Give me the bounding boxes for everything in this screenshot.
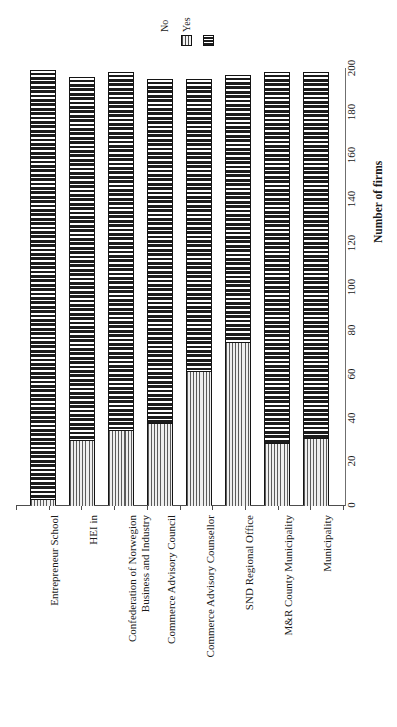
plot-area <box>0 50 345 515</box>
category-label-3: Confederation of Norwegion Business and … <box>126 515 151 715</box>
value-axis-tick-label: 100 <box>345 270 357 304</box>
value-axis-tick-label: 80 <box>345 313 357 347</box>
category-label-2: HEI in <box>87 515 100 715</box>
value-axis-tick-label: 40 <box>345 401 357 435</box>
axis-tick-mark <box>343 505 344 510</box>
value-axis-tick-label: 200 <box>345 51 357 85</box>
value-axis-tick-label: 120 <box>345 226 357 260</box>
value-axis-tick-label: 140 <box>345 182 357 216</box>
value-axis-tick-labels: 020406080100120140160180200 <box>345 50 375 515</box>
bar-segment-yes <box>31 71 55 499</box>
bar-4 <box>147 79 173 505</box>
value-axis-tick-label: 60 <box>345 357 357 391</box>
category-axis-labels: Entrepreneur SchoolHEI inConfederation o… <box>0 515 345 725</box>
bar-segment-no <box>109 430 133 506</box>
bar-segment-yes <box>304 73 328 438</box>
chart-legend: No Yes <box>178 2 238 46</box>
bar-segment-yes <box>148 80 172 423</box>
value-axis-title: Number of firms <box>372 161 384 243</box>
legend-label-no: No <box>159 2 170 32</box>
bar-6 <box>225 75 251 505</box>
axis-tick-mark <box>212 505 213 510</box>
stacked-bar-chart: No Yes 020406080100120140160180200 Numbe… <box>0 0 397 727</box>
legend-swatch-yes-icon <box>203 35 214 46</box>
value-axis-tick-label: 0 <box>345 488 357 522</box>
bar-segment-yes <box>109 73 133 429</box>
bar-segment-no <box>70 440 94 506</box>
bar-segment-no <box>226 342 250 506</box>
bar-2 <box>69 77 95 505</box>
bar-7 <box>264 72 290 505</box>
bar-segment-no <box>304 438 328 506</box>
category-label-1: Entrepreneur School <box>48 515 61 715</box>
bar-segment-yes <box>70 78 94 441</box>
category-label-7: M&R County Municipality <box>282 515 295 715</box>
bar-segment-no <box>31 499 55 506</box>
axis-tick-mark <box>16 505 17 510</box>
value-axis-tick-label: 180 <box>345 95 357 129</box>
category-label-5: Commerce Advisory Counsellor <box>204 515 217 715</box>
bar-8 <box>303 72 329 505</box>
bar-segment-yes <box>187 80 211 371</box>
value-axis-line <box>16 505 345 506</box>
category-label-6: SND Regional Office <box>243 515 256 715</box>
bar-segment-yes <box>226 76 250 343</box>
legend-label-yes: Yes <box>181 2 192 32</box>
category-label-4: Commerce Advisory Council <box>165 515 178 715</box>
bar-segment-no <box>148 423 172 506</box>
legend-swatch-no-icon <box>181 35 192 46</box>
bar-5 <box>186 79 212 505</box>
axis-tick-mark <box>180 505 181 510</box>
bar-segment-no <box>187 371 211 506</box>
category-label-8: Municipality <box>321 515 334 715</box>
bar-segment-yes <box>265 73 289 442</box>
bar-segment-no <box>265 443 289 506</box>
value-axis-tick-label: 160 <box>345 138 357 172</box>
bar-3 <box>108 72 134 505</box>
legend-entry-yes: Yes <box>200 2 224 46</box>
value-axis-tick-label: 20 <box>345 444 357 478</box>
bar-1 <box>30 70 56 505</box>
